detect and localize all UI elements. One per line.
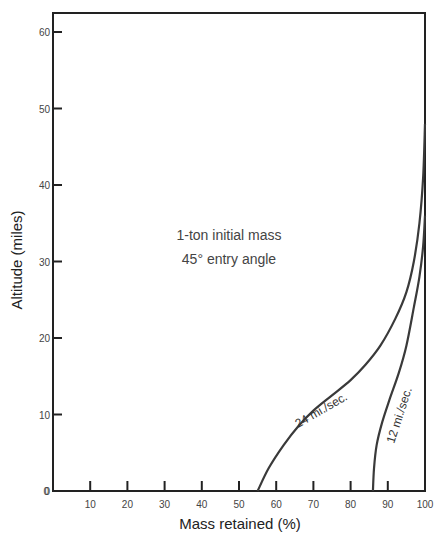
x-tick-label: 10 <box>85 499 97 510</box>
annotation-line1: 1-ton initial mass <box>176 227 281 243</box>
curves <box>258 124 425 491</box>
curve-24-mi-sec <box>258 124 425 491</box>
y-tick-label: 20 <box>39 333 51 344</box>
annotation-line2: 45° entry angle <box>182 251 277 267</box>
x-axis-ticks: 1020304050607080901000 <box>43 481 433 510</box>
origin-label: 0 <box>43 486 49 497</box>
x-tick-label: 60 <box>271 499 283 510</box>
chart: 0102030405060 1020304050607080901000 1-t… <box>0 0 440 547</box>
y-tick-label: 10 <box>39 410 51 421</box>
y-axis-ticks: 0102030405060 <box>39 27 62 497</box>
x-tick-label: 80 <box>345 499 357 510</box>
x-tick-label: 50 <box>233 499 245 510</box>
y-tick-label: 60 <box>39 27 51 38</box>
y-tick-label: 30 <box>39 257 51 268</box>
x-tick-label: 90 <box>382 499 394 510</box>
series-12-label: 12 mi./sec. <box>384 385 415 445</box>
y-axis-title: Altitude (miles) <box>8 210 25 309</box>
y-tick-label: 40 <box>39 180 51 191</box>
x-tick-label: 100 <box>417 499 434 510</box>
x-tick-label: 40 <box>196 499 208 510</box>
x-axis-title: Mass retained (%) <box>179 515 301 532</box>
x-tick-label: 70 <box>308 499 320 510</box>
x-tick-label: 20 <box>122 499 134 510</box>
x-tick-label: 30 <box>159 499 171 510</box>
y-tick-label: 50 <box>39 104 51 115</box>
curve-12-mi-sec <box>373 216 425 491</box>
series-24-label: 24 mi./sec. <box>293 389 350 430</box>
